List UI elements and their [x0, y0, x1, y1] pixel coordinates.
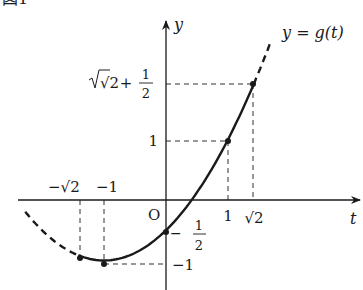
y-label-neg-half: − 1 2 [170, 218, 206, 253]
t-label-sqrt2: √2 [244, 209, 263, 227]
svg-text:1: 1 [195, 218, 203, 233]
svg-text:2: 2 [195, 238, 203, 253]
y-label-sqrt2-plus-half: √2 + 1 2 [89, 67, 153, 101]
point-vertex [101, 261, 107, 267]
point-neg-sqrt2 [77, 255, 83, 261]
figure-caption: 図1 [2, 0, 28, 8]
point-t-1 [225, 138, 231, 144]
svg-text:+: + [120, 74, 133, 92]
curve-dashed-left [25, 212, 78, 256]
y-axis-label: y [173, 15, 184, 34]
t-axis-label: t [350, 209, 357, 228]
graph-figure: 図1 y t O y = g(t) √2 + 1 2 1 [0, 0, 363, 290]
svg-text:1: 1 [142, 67, 150, 82]
y-label-neg-1: −1 [172, 256, 194, 274]
t-label-1: 1 [223, 207, 233, 225]
svg-text:−√2: −√2 [48, 178, 80, 196]
t-label-neg-1: −1 [96, 178, 118, 196]
svg-text:√2: √2 [100, 74, 119, 92]
y-label-1: 1 [148, 132, 158, 150]
point-y-intercept [163, 229, 169, 235]
origin-label: O [148, 206, 160, 224]
point-t-sqrt2 [250, 81, 256, 87]
t-label-neg-sqrt2: −√2 [48, 178, 80, 196]
curve-label: y = g(t) [281, 23, 344, 42]
svg-text:−: − [170, 225, 182, 241]
svg-text:2: 2 [142, 86, 150, 101]
curve-dashed-right [254, 40, 272, 84]
